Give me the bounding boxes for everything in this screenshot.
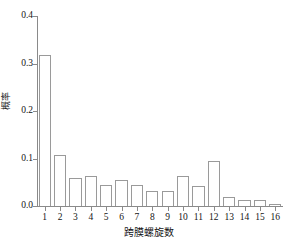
x-tick-mark — [45, 207, 46, 211]
y-tick-label: 0.3 — [9, 59, 33, 69]
bar — [192, 186, 204, 206]
x-tick-mark — [198, 207, 199, 211]
bar — [269, 204, 281, 206]
bar — [85, 176, 97, 206]
x-tick-mark — [75, 207, 76, 211]
y-tick-mark — [33, 111, 37, 112]
y-axis-tick-labels: 0.00.10.20.30.4 — [8, 0, 33, 245]
x-tick-mark — [214, 207, 215, 211]
y-tick-mark — [33, 64, 37, 65]
y-tick-label: 0.2 — [9, 106, 33, 116]
x-tick-mark — [183, 207, 184, 211]
bar — [39, 55, 51, 206]
bar — [162, 191, 174, 206]
x-tick-label: 16 — [264, 212, 286, 222]
y-tick-mark — [33, 206, 37, 207]
x-tick-mark — [229, 207, 230, 211]
bar — [115, 180, 127, 206]
bar — [177, 176, 189, 206]
plot-area — [37, 16, 283, 206]
bar — [223, 197, 235, 206]
y-tick-label: 0.0 — [9, 201, 33, 211]
y-tick-mark — [33, 159, 37, 160]
x-tick-mark — [91, 207, 92, 211]
x-tick-mark — [152, 207, 153, 211]
y-tick-mark — [33, 16, 37, 17]
bar — [254, 200, 266, 206]
y-tick-label: 0.4 — [9, 11, 33, 21]
x-tick-mark — [106, 207, 107, 211]
x-tick-mark — [168, 207, 169, 211]
x-axis-line — [37, 206, 283, 207]
bar — [131, 185, 143, 206]
x-tick-mark — [122, 207, 123, 211]
bar — [69, 178, 81, 207]
bar — [238, 200, 250, 206]
bar — [146, 191, 158, 206]
x-tick-mark — [260, 207, 261, 211]
bar — [208, 161, 220, 206]
bar-chart-figure: 概率 0.00.10.20.30.4 跨膜螺旋数 123456789101112… — [0, 0, 298, 245]
bar — [54, 155, 66, 206]
x-axis-title: 跨膜螺旋数 — [0, 227, 298, 238]
x-tick-mark — [137, 207, 138, 211]
x-tick-mark — [275, 207, 276, 211]
bar — [100, 185, 112, 206]
x-tick-mark — [245, 207, 246, 211]
y-tick-label: 0.1 — [9, 154, 33, 164]
x-tick-mark — [60, 207, 61, 211]
